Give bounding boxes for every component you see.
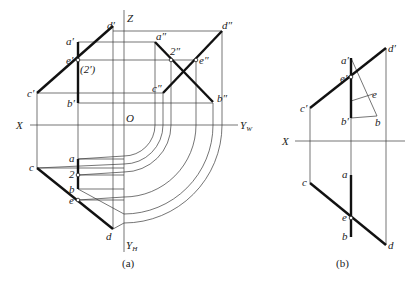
line-cd-top-b [310,183,386,245]
point-e-top-b [349,216,353,220]
projection-diagram: Z X O YW YH a′ d′ e′ (2′) c′ b′ a″ d″ 2″… [0,0,413,282]
label-c-front: c′ [27,87,35,99]
label-c-top-b: c [302,176,307,188]
point-e-side [194,58,198,62]
label-b-side: b″ [217,92,228,104]
label-z: Z [127,12,134,24]
caption-a: (a) [122,257,135,270]
arc-2 [78,125,171,175]
label-d-front-b: d′ [388,42,397,54]
label-b-front: b′ [67,97,76,109]
construction-b-b [351,116,377,118]
arc-a [78,125,155,159]
label-c-front-b: c′ [300,102,308,114]
label-b-top-b: b [342,230,348,242]
point-e-front-b [349,75,353,79]
point-e-front [76,58,80,62]
arc-b [78,125,213,214]
label-b-top: b [69,183,75,195]
label-x-b: X [281,135,290,147]
label-c-side: c″ [152,82,162,94]
arc-d [113,125,222,229]
point-2-side [169,58,173,62]
label-e-side: e″ [199,54,209,66]
label-e-front: e′ [66,54,74,66]
label-e-construction: e [372,88,377,100]
label-d-top: d [106,230,112,242]
label-a-top: a [69,152,75,164]
label-d-front: d′ [107,19,116,31]
line-cd-front [37,26,113,93]
label-x: X [15,119,24,131]
label-a-front-b: a′ [341,54,350,66]
label-a-top-b: a [342,168,348,180]
label-yw: YW [240,119,253,133]
figure-a: Z X O YW YH a′ d′ e′ (2′) c′ b′ a″ d″ 2″… [15,10,253,270]
label-o: O [126,112,134,124]
label-2-side: 2″ [170,45,181,57]
label-a-front: a′ [66,35,75,47]
label-d-side: d″ [222,19,233,31]
label-b-front-b: b′ [341,115,350,127]
label-d-top-b: d [388,239,394,251]
label-e-front-b: e′ [340,72,348,84]
label-e-top-b: e [342,211,347,223]
point-2-top [76,173,80,177]
caption-b: (b) [336,257,349,270]
label-b-construction: b [375,116,381,128]
figure-b: X a′ d′ e′ c′ b′ e b a c e b d (b) [281,42,405,270]
label-2-top: 2 [69,168,75,180]
point-e-top [76,198,80,202]
arc-c [37,125,163,168]
label-a-side: a″ [156,30,167,42]
label-c-top: c [29,161,34,173]
label-yh: YH [126,239,138,253]
label-2-front: (2′) [80,63,96,76]
label-e-top: e [69,194,74,206]
